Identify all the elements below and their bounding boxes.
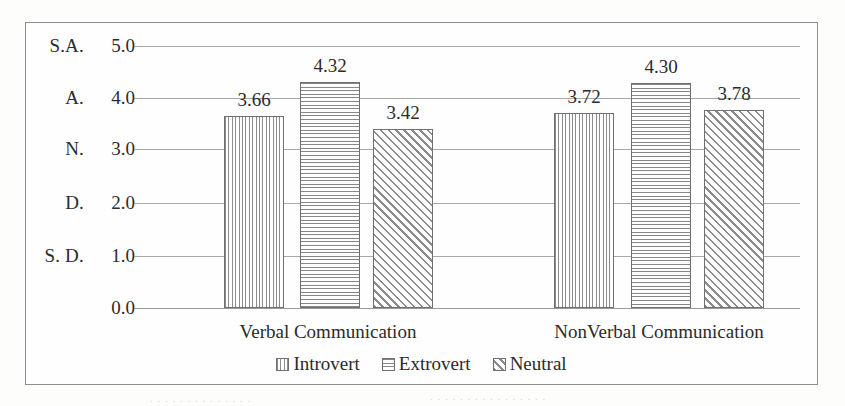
y-axis-category-label: N. xyxy=(26,138,91,160)
bar-extrovert-nonverbal[interactable] xyxy=(631,83,691,308)
scan-artifact-right: . . . . . . . . . . . . . . . . xyxy=(430,390,546,402)
bar-value-label: 3.42 xyxy=(386,102,419,124)
plot-area: S.A.5.0A.4.0N.3.0D.2.0S. D.1.00.03.664.3… xyxy=(26,23,817,384)
bar-value-label: 3.72 xyxy=(567,86,600,108)
y-axis-tick: N.3.0 xyxy=(26,139,134,159)
legend-label: Neutral xyxy=(510,353,567,375)
y-axis-tick: S.A.5.0 xyxy=(26,36,134,56)
legend-label: Extrovert xyxy=(399,353,471,375)
scan-artifact-left: . . . . . . . . . . . . . . xyxy=(150,392,251,404)
legend-item-neutral[interactable]: Neutral xyxy=(493,353,567,375)
y-axis-value-label: 5.0 xyxy=(91,35,135,57)
bar-introvert-nonverbal[interactable] xyxy=(554,113,614,308)
y-axis-tick: A.4.0 xyxy=(26,88,134,108)
y-axis-value-label: 3.0 xyxy=(91,138,135,160)
legend-item-introvert[interactable]: Introvert xyxy=(276,353,359,375)
y-axis-category-label: A. xyxy=(26,87,91,109)
bar-introvert-verbal[interactable] xyxy=(224,116,284,308)
chart-frame: S.A.5.0A.4.0N.3.0D.2.0S. D.1.00.03.664.3… xyxy=(25,22,818,385)
x-axis-category-label: NonVerbal Communication xyxy=(554,321,764,343)
y-axis-value-label: 2.0 xyxy=(91,192,135,214)
y-axis-value-label: 4.0 xyxy=(91,87,135,109)
x-axis-category-label: Verbal Communication xyxy=(240,321,417,343)
legend-swatch-horizontal-icon xyxy=(382,358,395,371)
y-axis-tick: D.2.0 xyxy=(26,193,134,213)
legend-label: Introvert xyxy=(293,353,359,375)
y-axis-category-label: S. D. xyxy=(26,245,91,267)
bar-value-label: 4.32 xyxy=(313,55,346,77)
axis-baseline xyxy=(134,308,800,309)
legend-swatch-diagonal-icon xyxy=(493,358,506,371)
gridline xyxy=(134,46,800,47)
bar-value-label: 3.66 xyxy=(237,89,270,111)
bar-extrovert-verbal[interactable] xyxy=(300,82,360,308)
bar-value-label: 3.78 xyxy=(717,83,750,105)
y-axis-tick: 0.0 xyxy=(26,298,134,318)
bar-neutral-verbal[interactable] xyxy=(373,129,433,308)
gridline xyxy=(134,98,800,99)
y-axis-category-label: S.A. xyxy=(26,35,91,57)
y-axis-value-label: 0.0 xyxy=(91,297,135,319)
chart-legend: IntrovertExtrovertNeutral xyxy=(26,353,817,375)
bar-neutral-nonverbal[interactable] xyxy=(704,110,764,308)
y-axis-category-label: D. xyxy=(26,192,91,214)
legend-swatch-vertical-icon xyxy=(276,358,289,371)
bar-value-label: 4.30 xyxy=(644,56,677,78)
y-axis-tick: S. D.1.0 xyxy=(26,246,134,266)
legend-item-extrovert[interactable]: Extrovert xyxy=(382,353,471,375)
y-axis-value-label: 1.0 xyxy=(91,245,135,267)
